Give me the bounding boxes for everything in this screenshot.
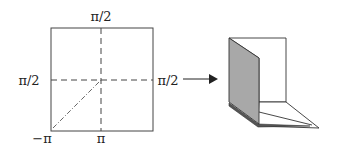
diagonal-dashdot-line (53, 80, 101, 128)
label-left: π/2 (18, 73, 39, 88)
parameter-square (51, 28, 153, 131)
label-top: π/2 (90, 9, 111, 24)
folded-sheet-figure (229, 38, 319, 128)
label-bottom-left: −π (32, 131, 52, 146)
arrow-right-icon (183, 74, 218, 84)
label-bottom: π (97, 131, 106, 146)
label-right: π/2 (157, 73, 178, 88)
diagram-canvas: π/2 π/2 π/2 −π π (0, 0, 339, 152)
